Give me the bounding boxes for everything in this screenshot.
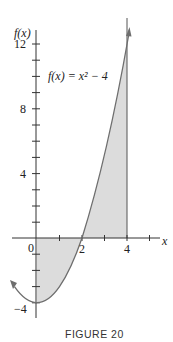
x-axis-label: x bbox=[161, 234, 168, 248]
x-tick-label-4: 4 bbox=[124, 242, 130, 256]
x-tick-label-0: 0 bbox=[28, 241, 34, 255]
function-label: f(x) = x² − 4 bbox=[48, 69, 108, 83]
figure-caption: FIGURE 20 bbox=[65, 328, 124, 340]
x-tick-label-2: 2 bbox=[79, 242, 85, 256]
y-tick-label-8: 8 bbox=[20, 102, 26, 116]
shaded-region-negative bbox=[37, 238, 82, 303]
y-axis-label: f(x) bbox=[14, 26, 31, 40]
y-tick-label-neg4: −4 bbox=[14, 302, 27, 316]
y-tick-label-4: 4 bbox=[20, 167, 26, 181]
figure-graph: 12 8 4 −4 0 2 4 f(x) x f(x) = x² − 4 FIG… bbox=[0, 0, 173, 342]
